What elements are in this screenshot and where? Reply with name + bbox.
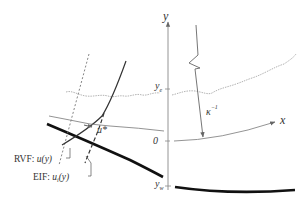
rvf-profile bbox=[62, 61, 126, 145]
kappa-inverse-line bbox=[189, 25, 203, 137]
boundary-layer-diagram: y x 0 ye yw κ−1 u* RVF: u(y) EIF: ui(y) bbox=[0, 0, 307, 206]
origin-label: 0 bbox=[153, 135, 158, 146]
rvf-label: RVF: u(y) bbox=[14, 154, 52, 165]
wall-curve-right bbox=[175, 187, 295, 192]
eif-label: EIF: ui(y) bbox=[33, 172, 69, 183]
rvf-leader bbox=[66, 148, 70, 158]
dotted-guide-line bbox=[59, 54, 89, 165]
u-star-label: u* bbox=[97, 124, 107, 135]
x-axis-label: x bbox=[279, 113, 286, 127]
kappa-inverse-label: κ−1 bbox=[206, 104, 218, 117]
eif-profile bbox=[85, 113, 104, 163]
x-axis-curve bbox=[174, 122, 275, 141]
y-axis-label: y bbox=[162, 9, 169, 23]
y-w-label: yw bbox=[154, 178, 163, 191]
y-axis bbox=[165, 22, 171, 190]
y-e-label: ye bbox=[154, 80, 162, 93]
boundary-layer-edge bbox=[66, 54, 296, 97]
